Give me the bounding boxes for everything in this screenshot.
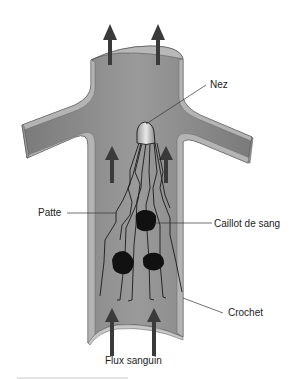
blood-clot	[143, 253, 164, 271]
label-clot: Caillot de sang	[214, 218, 280, 229]
blood-vessel	[22, 46, 253, 345]
label-nose: Nez	[210, 79, 228, 90]
blood-clot	[136, 210, 157, 231]
vena-cava-filter-diagram: Nez Patte Caillot de sang Crochet Flux s…	[0, 0, 295, 379]
label-hook: Crochet	[228, 307, 263, 318]
label-blood-flow: Flux sanguin	[105, 355, 162, 366]
label-leg: Patte	[38, 207, 62, 218]
